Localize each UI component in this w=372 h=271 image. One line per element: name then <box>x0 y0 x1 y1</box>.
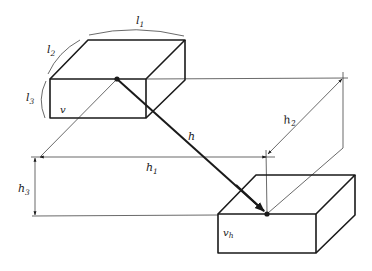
label-l3: l3 <box>26 91 35 106</box>
label-h3: h3 <box>18 182 30 197</box>
lower-reference-line <box>32 215 218 216</box>
label-vh: vh <box>223 227 234 240</box>
label-l2: l2 <box>47 43 56 58</box>
lower-block-point <box>264 211 269 216</box>
label-h1: h1 <box>146 161 158 176</box>
h2-dimension-line <box>268 79 342 154</box>
h-displacement-line-overlap <box>236 185 264 211</box>
lower-block-top-face <box>218 175 355 214</box>
label-h: h <box>188 130 195 143</box>
label-l1: l1 <box>136 14 144 29</box>
label-h2: h2 <box>283 112 297 129</box>
right-diagonal-reference <box>268 148 343 213</box>
upper-reference-line <box>146 78 348 79</box>
block-displacement-diagram: l1 l2 l3 v h h1 h2 h3 vh <box>0 0 372 271</box>
lower-block-side-face <box>316 175 355 253</box>
label-v: v <box>60 104 66 115</box>
l1-dimension-arc <box>89 30 184 36</box>
lower-vertical-reference <box>266 150 267 213</box>
l3-dimension-arc <box>41 81 46 118</box>
